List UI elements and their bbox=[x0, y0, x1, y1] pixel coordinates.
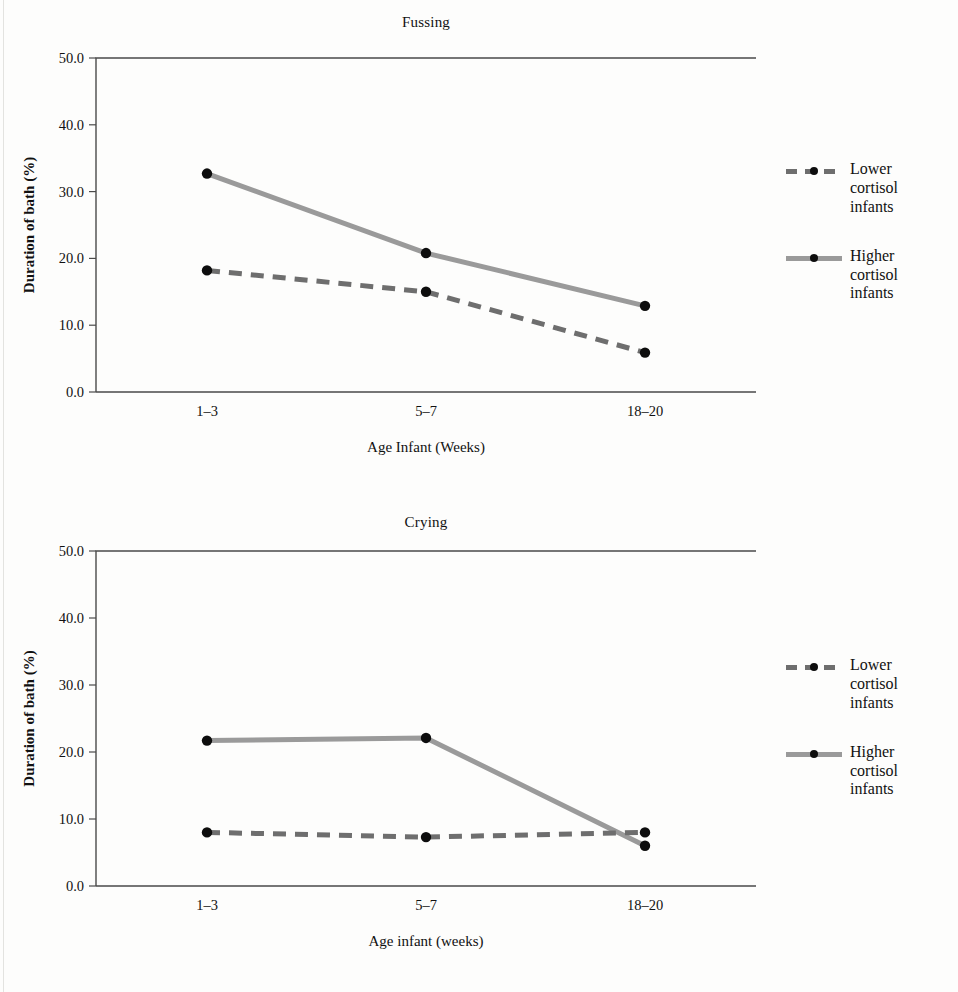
series-line-higher-cortisol bbox=[207, 738, 645, 846]
plot-frame bbox=[96, 58, 756, 392]
chart-panel-fussing: Fussing 0.010.020.030.040.050.0Duration … bbox=[0, 0, 958, 496]
data-point-marker[interactable] bbox=[421, 287, 431, 297]
legend-entry-higher-cortisol[interactable]: Higher cortisol infants bbox=[786, 247, 956, 304]
y-tick-label: 50.0 bbox=[59, 543, 84, 559]
data-point-marker[interactable] bbox=[421, 832, 431, 842]
x-tick-label: 18–20 bbox=[627, 403, 663, 419]
y-tick-label: 0.0 bbox=[66, 878, 84, 894]
legend-label-higher-cortisol: Higher cortisol infants bbox=[850, 743, 950, 800]
y-tick-label: 30.0 bbox=[59, 677, 84, 693]
legend-swatch-solid-line-icon bbox=[786, 747, 842, 761]
x-axis-title: Age Infant (Weeks) bbox=[367, 439, 485, 456]
legend-label-lower-cortisol: Lower cortisol infants bbox=[850, 656, 950, 713]
data-point-marker[interactable] bbox=[421, 733, 431, 743]
y-tick-label: 20.0 bbox=[59, 250, 84, 266]
x-tick-label: 18–20 bbox=[627, 897, 663, 913]
legend-swatch-dashed-line-icon bbox=[786, 164, 842, 178]
x-tick-label: 1–3 bbox=[196, 403, 218, 419]
data-point-marker[interactable] bbox=[202, 265, 212, 275]
y-axis-title: Duration of bath (%) bbox=[21, 650, 38, 786]
data-point-marker[interactable] bbox=[640, 827, 650, 837]
legend-crying: Lower cortisol infants Higher cortisol i… bbox=[786, 656, 956, 829]
x-tick-label: 1–3 bbox=[196, 897, 218, 913]
y-tick-label: 40.0 bbox=[59, 610, 84, 626]
chart-panel-crying: Crying 0.010.020.030.040.050.0Duration o… bbox=[0, 496, 958, 992]
x-tick-label: 5–7 bbox=[415, 403, 437, 419]
y-tick-label: 10.0 bbox=[59, 811, 84, 827]
legend-swatch-solid-line-icon bbox=[786, 251, 842, 265]
legend-label-higher-cortisol: Higher cortisol infants bbox=[850, 247, 950, 304]
y-tick-label: 30.0 bbox=[59, 184, 84, 200]
x-axis-title: Age infant (weeks) bbox=[369, 933, 484, 950]
y-axis-title: Duration of bath (%) bbox=[21, 157, 38, 293]
legend-entry-higher-cortisol[interactable]: Higher cortisol infants bbox=[786, 743, 956, 800]
y-tick-label: 20.0 bbox=[59, 744, 84, 760]
y-tick-label: 10.0 bbox=[59, 317, 84, 333]
figure-page: Fussing 0.010.020.030.040.050.0Duration … bbox=[0, 0, 958, 992]
data-point-marker[interactable] bbox=[640, 841, 650, 851]
data-point-marker[interactable] bbox=[421, 248, 431, 258]
series-line-lower-cortisol bbox=[207, 270, 645, 352]
y-tick-label: 40.0 bbox=[59, 117, 84, 133]
legend-entry-lower-cortisol[interactable]: Lower cortisol infants bbox=[786, 656, 956, 713]
legend-fussing: Lower cortisol infants Higher cortisol i… bbox=[786, 160, 956, 333]
data-point-marker[interactable] bbox=[640, 301, 650, 311]
data-point-marker[interactable] bbox=[202, 168, 212, 178]
legend-swatch-dashed-line-icon bbox=[786, 660, 842, 674]
series-line-higher-cortisol bbox=[207, 174, 645, 306]
data-point-marker[interactable] bbox=[640, 347, 650, 357]
x-tick-label: 5–7 bbox=[415, 897, 437, 913]
legend-label-lower-cortisol: Lower cortisol infants bbox=[850, 160, 950, 217]
y-tick-label: 50.0 bbox=[59, 50, 84, 66]
data-point-marker[interactable] bbox=[202, 735, 212, 745]
y-tick-label: 0.0 bbox=[66, 384, 84, 400]
data-point-marker[interactable] bbox=[202, 827, 212, 837]
legend-entry-lower-cortisol[interactable]: Lower cortisol infants bbox=[786, 160, 956, 217]
